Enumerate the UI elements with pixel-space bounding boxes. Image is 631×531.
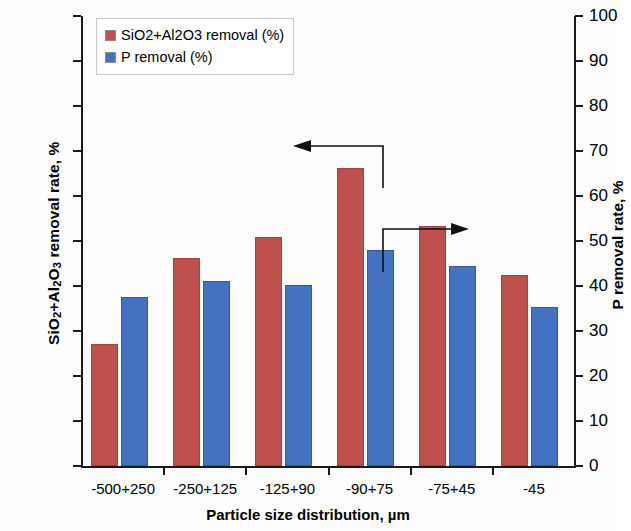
left-axis-tick: [73, 465, 81, 467]
x-axis-category-label: -250+125: [164, 480, 246, 497]
bar-p-removal--75+45: [449, 266, 476, 466]
right-axis-tick: [575, 240, 583, 242]
plot-area: 0102030405060708090100 01020304050607080…: [82, 16, 575, 466]
right-axis-tick: [575, 195, 583, 197]
legend-swatch-blue-icon: [105, 52, 116, 63]
bar-p-removal--500+250: [121, 297, 148, 466]
legend-label-p-removal: P removal (%): [121, 49, 213, 65]
x-axis-tick: [163, 467, 165, 475]
bar-sio2-al2o3--45: [501, 275, 528, 466]
right-axis-tick-label: 50: [589, 232, 631, 249]
x-axis-category-label: -500+250: [82, 480, 164, 497]
legend-item-p-removal: P removal (%): [105, 46, 284, 68]
bar-p-removal--45: [531, 307, 558, 466]
x-axis-title: Particle size distribution, µm: [0, 506, 616, 523]
right-axis-tick-label: 10: [589, 412, 631, 429]
right-axis-tick: [575, 465, 583, 467]
legend-swatch-red-icon: [105, 30, 116, 41]
left-axis-tick: [73, 240, 81, 242]
left-axis-title-part4: removal rate, %: [45, 141, 62, 262]
x-axis-category-label: -75+45: [411, 480, 493, 497]
left-axis-title: SiO2+Al2O3 removal rate, %: [45, 93, 63, 393]
right-axis-tick-label: 30: [589, 322, 631, 339]
left-axis-tick: [73, 375, 81, 377]
bar-sio2-al2o3--250+125: [173, 258, 200, 466]
x-axis-tick: [410, 467, 412, 475]
left-axis-title-sub3: 3: [51, 262, 63, 268]
right-axis-tick: [575, 375, 583, 377]
x-axis-tick: [328, 467, 330, 475]
right-axis-tick: [575, 420, 583, 422]
bar-sio2-al2o3--125+90: [255, 237, 282, 466]
bar-sio2-al2o3--500+250: [91, 344, 118, 466]
left-axis-tick: [73, 60, 81, 62]
left-axis-title-part1: SiO: [45, 318, 62, 345]
right-axis-tick-label: 0: [589, 457, 631, 474]
left-axis-tick: [73, 285, 81, 287]
bar-p-removal--125+90: [285, 285, 312, 466]
bar-sio2-al2o3--90+75: [337, 168, 364, 466]
left-axis-tick: [73, 420, 81, 422]
right-axis-tick: [575, 285, 583, 287]
x-axis-category-label: -125+90: [246, 480, 328, 497]
left-axis-title-part3: O: [45, 268, 62, 280]
x-axis-tick: [245, 467, 247, 475]
x-axis-tick: [492, 467, 494, 475]
left-axis-tick: [73, 195, 81, 197]
right-axis-tick-label: 80: [589, 97, 631, 114]
right-axis-tick-label: 100: [589, 7, 631, 24]
x-axis-category-label: -90+75: [329, 480, 411, 497]
left-axis-title-part2: +Al: [45, 287, 62, 312]
left-axis-tick: [73, 150, 81, 152]
right-axis-tick-label: 40: [589, 277, 631, 294]
left-axis-tick: [73, 105, 81, 107]
right-axis-tick: [575, 330, 583, 332]
left-axis-tick: [73, 330, 81, 332]
legend-label-sio2-al2o3: SiO2+Al2O3 removal (%): [121, 27, 284, 43]
left-axis-title-sub2: 2: [51, 280, 63, 286]
bar-p-removal--90+75: [367, 250, 394, 466]
right-axis-tick: [575, 60, 583, 62]
right-axis-tick-label: 90: [589, 52, 631, 69]
right-axis-tick-label: 60: [589, 187, 631, 204]
left-axis-tick: [73, 15, 81, 17]
right-axis-tick: [575, 15, 583, 17]
bar-p-removal--250+125: [203, 281, 230, 466]
left-axis-title-sub1: 2: [51, 312, 63, 318]
right-axis-tick: [575, 105, 583, 107]
left-axis-line: [81, 16, 83, 467]
chart-legend: SiO2+Al2O3 removal (%) P removal (%): [96, 18, 294, 75]
bar-sio2-al2o3--75+45: [419, 226, 446, 466]
x-axis-category-label: -45: [493, 480, 575, 497]
right-axis-tick-label: 70: [589, 142, 631, 159]
legend-item-sio2-al2o3: SiO2+Al2O3 removal (%): [105, 24, 284, 46]
right-axis-tick: [575, 150, 583, 152]
right-axis-tick-label: 20: [589, 367, 631, 384]
